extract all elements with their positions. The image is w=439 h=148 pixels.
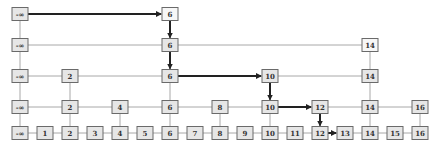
- node-key: 6: [168, 41, 173, 50]
- skip-list-node: 16: [412, 127, 428, 140]
- skip-list-node: 8: [212, 101, 228, 114]
- node-key: 14: [365, 129, 375, 138]
- skip-list-node: 1: [37, 127, 53, 140]
- skip-list-node: 6: [162, 127, 178, 140]
- skip-list-node: 15: [387, 127, 403, 140]
- node-key: 16: [415, 103, 425, 112]
- skip-list-node: -∞: [12, 101, 28, 114]
- skip-list-node: 7: [187, 127, 203, 140]
- skip-list-node: 14: [362, 101, 378, 114]
- skip-list-node: 10: [262, 101, 278, 114]
- skip-list-node: 6: [162, 8, 178, 21]
- node-key: 10: [265, 129, 275, 138]
- skip-list-node: 6: [162, 39, 178, 52]
- node-key: 2: [68, 129, 73, 138]
- node-key: 1: [43, 129, 48, 138]
- node-key: 12: [315, 103, 325, 112]
- node-key: 6: [168, 72, 173, 81]
- node-key: -∞: [16, 41, 25, 50]
- node-key: 9: [243, 129, 248, 138]
- skip-list-node: 16: [412, 101, 428, 114]
- node-key: 8: [218, 103, 223, 112]
- node-key: 10: [265, 103, 275, 112]
- skip-list-node: 11: [287, 127, 303, 140]
- node-key: -∞: [16, 10, 25, 19]
- skip-list-node: 9: [237, 127, 253, 140]
- skip-list-node: -∞: [12, 8, 28, 21]
- skip-list-node: 2: [62, 127, 78, 140]
- node-key: 14: [365, 103, 375, 112]
- node-key: 14: [365, 41, 375, 50]
- node-key: 13: [340, 129, 350, 138]
- node-key: 11: [290, 129, 300, 138]
- node-key: -∞: [16, 103, 25, 112]
- node-key: -∞: [16, 72, 25, 81]
- skip-list-node: 12: [312, 127, 328, 140]
- skip-list-node: 2: [62, 101, 78, 114]
- node-key: 4: [118, 103, 123, 112]
- skip-list-node: 14: [362, 127, 378, 140]
- skip-list-node: 4: [112, 101, 128, 114]
- node-key: 3: [93, 129, 98, 138]
- node-key: 6: [168, 103, 173, 112]
- skip-list-node: 5: [137, 127, 153, 140]
- level-links: [20, 14, 420, 133]
- skip-list-node: 4: [112, 127, 128, 140]
- node-key: 14: [365, 72, 375, 81]
- node-key: 6: [168, 129, 173, 138]
- skip-list-node: 10: [262, 127, 278, 140]
- skip-list-node: 10: [262, 70, 278, 83]
- node-key: 4: [118, 129, 123, 138]
- node-key: 15: [390, 129, 400, 138]
- node-key: 5: [143, 129, 148, 138]
- skip-list-node: -∞: [12, 39, 28, 52]
- node-key: 2: [68, 72, 73, 81]
- skip-list-node: -∞: [12, 127, 28, 140]
- skip-list-node: 2: [62, 70, 78, 83]
- skip-list-node: 14: [362, 70, 378, 83]
- node-key: 16: [415, 129, 425, 138]
- node-key: 10: [265, 72, 275, 81]
- node-key: 7: [193, 129, 198, 138]
- skip-list-node: 14: [362, 39, 378, 52]
- node-key: -∞: [16, 129, 25, 138]
- skip-list-diagram: -∞12345678910111213141516-∞246810121416-…: [0, 0, 439, 148]
- skip-list-node: 3: [87, 127, 103, 140]
- skip-list-node: 13: [337, 127, 353, 140]
- skip-list-node: -∞: [12, 70, 28, 83]
- skip-list-node: 12: [312, 101, 328, 114]
- node-key: 2: [68, 103, 73, 112]
- node-key: 12: [315, 129, 325, 138]
- skip-list-node: 8: [212, 127, 228, 140]
- node-key: 6: [168, 10, 173, 19]
- node-key: 8: [218, 129, 223, 138]
- skip-list-node: 6: [162, 70, 178, 83]
- skip-list-node: 6: [162, 101, 178, 114]
